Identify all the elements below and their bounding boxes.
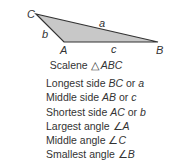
side-label-b: b bbox=[42, 28, 48, 40]
fact-largest-angle: Largest angle ∠A bbox=[46, 119, 146, 133]
side-label-a: a bbox=[99, 17, 105, 29]
fact-shortest-side: Shortest side AC or b bbox=[46, 105, 146, 119]
triangle-shape bbox=[36, 14, 158, 42]
fact-middle-side: Middle side AB or c bbox=[46, 90, 146, 104]
fact-middle-angle: Middle angle ∠C bbox=[46, 133, 146, 147]
fact-smallest-angle: Smallest angle ∠B bbox=[46, 147, 146, 161]
angle-icon: ∠ bbox=[108, 134, 118, 146]
scalene-triangle-diagram: C A B a b c bbox=[0, 0, 172, 60]
vertex-label-b: B bbox=[156, 44, 163, 56]
angle-icon: ∠ bbox=[118, 148, 128, 160]
facts-list: Longest side BC or a Middle side AB or c… bbox=[46, 76, 146, 162]
caption-prefix: Scalene bbox=[50, 59, 91, 71]
vertex-label-a: A bbox=[59, 44, 67, 56]
angle-icon: ∠ bbox=[113, 120, 123, 132]
fact-longest-side: Longest side BC or a bbox=[46, 76, 146, 90]
vertex-label-c: C bbox=[27, 8, 35, 20]
triangle-symbol-icon: △ bbox=[91, 59, 99, 71]
caption-name: ABC bbox=[101, 59, 123, 71]
caption: Scalene △ ABC bbox=[0, 59, 172, 72]
side-label-c: c bbox=[111, 43, 117, 55]
